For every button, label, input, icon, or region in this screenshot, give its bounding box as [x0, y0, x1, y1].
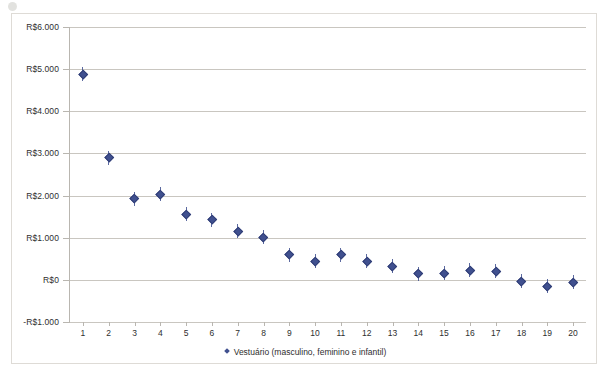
x-axis-tick: [315, 322, 316, 326]
error-bar: [160, 187, 161, 201]
error-bar: [340, 248, 341, 262]
x-axis-tick: [367, 322, 368, 326]
x-axis-tick-label: 14: [414, 328, 423, 338]
data-point-marker: [362, 256, 371, 265]
x-axis-tick-label: 7: [235, 328, 240, 338]
data-point-marker: [491, 267, 500, 276]
x-axis-tick-label: 9: [287, 328, 292, 338]
x-axis-tick: [83, 322, 84, 326]
x-axis-tick-label: 13: [388, 328, 397, 338]
legend-label: Vestuário (masculino, feminino e infanti…: [234, 347, 387, 357]
data-point-marker: [465, 265, 474, 274]
x-axis-tick: [573, 322, 574, 326]
x-axis-tick-label: 5: [184, 328, 189, 338]
x-axis-tick-label: 6: [210, 328, 215, 338]
data-point-marker: [207, 215, 216, 224]
chart-bottom-edge: [11, 363, 597, 364]
x-axis-tick-label: 10: [310, 328, 319, 338]
data-point-marker: [543, 282, 552, 291]
chart-legend: Vestuário (masculino, feminino e infanti…: [0, 346, 611, 357]
x-axis-tick-label: 20: [568, 328, 577, 338]
y-axis-tick-label: R$1.000: [26, 233, 59, 243]
legend-marker-icon: [224, 348, 230, 354]
error-bar: [469, 263, 470, 277]
x-axis-tick-label: 3: [132, 328, 137, 338]
x-axis-tick: [135, 322, 136, 326]
data-point-marker: [156, 189, 165, 198]
error-bar: [134, 192, 135, 206]
x-axis-tick: [160, 322, 161, 326]
y-axis-tick-label: -R$1.000: [23, 317, 59, 327]
x-axis-tick: [264, 322, 265, 326]
y-axis-tick-label: R$5.000: [26, 64, 59, 74]
y-axis-tick-label: R$2.000: [26, 191, 59, 201]
data-point-marker: [233, 227, 242, 236]
x-axis-tick: [418, 322, 419, 326]
x-axis-tick: [186, 322, 187, 326]
x-axis-tick: [289, 322, 290, 326]
x-axis-tick-label: 16: [465, 328, 474, 338]
y-axis-tick: [63, 69, 69, 70]
x-axis-tick: [522, 322, 523, 326]
data-point-marker: [388, 262, 397, 271]
x-axis-tick-label: 17: [491, 328, 500, 338]
x-axis-tick-label: 8: [261, 328, 266, 338]
y-axis-tick: [63, 280, 69, 281]
error-bar: [418, 267, 419, 281]
y-axis-tick: [63, 322, 69, 323]
y-axis-tick-label: R$0: [43, 275, 59, 285]
data-point-marker: [311, 256, 320, 265]
x-axis-tick-label: 12: [362, 328, 371, 338]
chart-canvas: R$6.000R$5.000R$4.000R$3.000R$2.000R$1.0…: [0, 0, 611, 378]
data-point-marker: [440, 268, 449, 277]
data-point-marker: [285, 250, 294, 259]
error-bar: [315, 254, 316, 268]
y-axis-tick: [63, 111, 69, 112]
data-point-marker: [414, 269, 423, 278]
gridline: [70, 111, 586, 112]
y-axis-tick-label: R$3.000: [26, 148, 59, 158]
x-axis-tick: [547, 322, 548, 326]
y-axis-tick: [63, 27, 69, 28]
error-bar: [495, 264, 496, 278]
x-axis-tick: [341, 322, 342, 326]
x-axis-tick-label: 15: [439, 328, 448, 338]
y-axis-tick-label: R$4.000: [26, 106, 59, 116]
y-axis-tick: [63, 196, 69, 197]
x-axis-tick-label: 19: [543, 328, 552, 338]
x-axis-tick-label: 2: [106, 328, 111, 338]
gridline: [70, 238, 586, 239]
x-axis-ticks: [70, 322, 586, 327]
x-axis-tick: [109, 322, 110, 326]
gridline: [70, 153, 586, 154]
plot-area: [70, 27, 586, 322]
error-bar: [573, 275, 574, 289]
data-point-marker: [569, 277, 578, 286]
x-axis-tick-label: 11: [336, 328, 345, 338]
y-axis-tick-label: R$6.000: [26, 22, 59, 32]
x-axis-tick: [496, 322, 497, 326]
error-bar: [366, 254, 367, 268]
data-point-marker: [104, 153, 113, 162]
error-bar: [186, 207, 187, 221]
x-axis-tick-label: 4: [158, 328, 163, 338]
gridline: [70, 280, 586, 281]
gridline: [70, 27, 586, 28]
x-axis-tick: [393, 322, 394, 326]
x-axis-tick: [238, 322, 239, 326]
x-axis-tick: [444, 322, 445, 326]
error-bar: [211, 213, 212, 227]
data-point-marker: [182, 209, 191, 218]
error-bar: [237, 224, 238, 238]
y-axis-tick: [63, 153, 69, 154]
gridline: [70, 69, 586, 70]
x-axis-tick: [212, 322, 213, 326]
data-point-marker: [78, 70, 87, 79]
error-bar: [392, 259, 393, 273]
gridline: [70, 196, 586, 197]
error-bar: [547, 279, 548, 293]
error-bar: [289, 248, 290, 262]
x-axis-tick: [470, 322, 471, 326]
data-point-marker: [336, 250, 345, 259]
y-axis-labels: R$6.000R$5.000R$4.000R$3.000R$2.000R$1.0…: [0, 0, 59, 378]
